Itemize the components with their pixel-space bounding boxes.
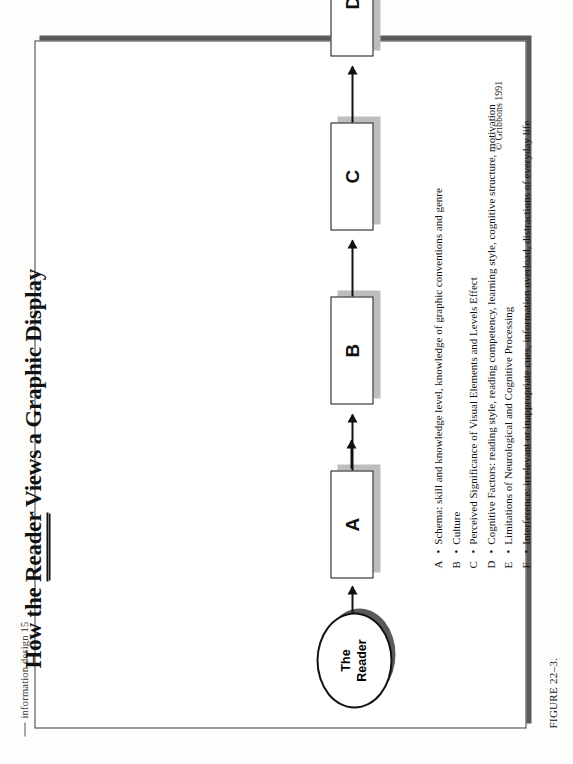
legend-item-b: B•Culture (449, 104, 461, 568)
running-head-rule (24, 722, 25, 736)
legend-key-f: F (519, 558, 531, 568)
legend-item-a: A•Schema: skill and knowledge level, kno… (431, 104, 443, 568)
reader-node-line2: Reader (354, 639, 370, 681)
legend-key-b: B (449, 558, 461, 568)
title-suffix: Views a Graphic Display (20, 268, 45, 511)
legend-text-b: Culture (449, 511, 461, 544)
legend-item-f: F•Interference: irrelevant or inappropri… (519, 104, 531, 568)
legend-sep-b: • (449, 549, 461, 553)
legend-sep-f: • (519, 549, 531, 553)
legend-key-a: A (431, 558, 443, 568)
legend-text-e: Limitations of Neurological and Cognitiv… (501, 306, 513, 544)
reader-node: The Reader (316, 612, 392, 708)
legend-key-c: C (466, 558, 478, 568)
legend-sep-d: • (484, 549, 496, 553)
process-box-b-label: B (341, 343, 363, 357)
legend-text-c: Perceived Significance of Visual Element… (466, 277, 478, 544)
figure-title: How the Reader Views a Graphic Display (20, 268, 46, 668)
legend-item-d: D•Cognitive Factors: reading style, read… (484, 104, 496, 568)
legend-sep-c: • (466, 549, 478, 553)
figure-caption: FIGURE 22–3. (546, 657, 558, 728)
process-box-b: B (330, 296, 373, 404)
legend-item-e: E•Limitations of Neurological and Cognit… (501, 104, 513, 568)
legend-item-c: C•Perceived Significance of Visual Eleme… (466, 104, 478, 568)
arrow-a-to-b (351, 414, 353, 470)
legend-key-e: E (501, 558, 513, 568)
reader-node-line1: The (338, 649, 354, 671)
scanned-page: information design 15 How the Reader Vie… (0, 0, 573, 764)
title-underlined-word: Reader (20, 512, 48, 582)
legend-text-f: Interference: irrelevant or inappropriat… (519, 120, 531, 544)
legend-key-d: D (484, 558, 496, 568)
arrow-reader-to-a (351, 586, 353, 612)
legend-text-a: Schema: skill and knowledge level, knowl… (431, 188, 443, 544)
copyright-notice: © Gribbons 1991 (492, 80, 503, 150)
process-box-d: D (330, 0, 373, 56)
legend-sep-a: • (431, 549, 443, 553)
legend-sep-e: • (501, 549, 513, 553)
arrow-c-to-d (351, 66, 353, 122)
process-box-a-label: A (341, 517, 363, 531)
title-prefix: How the (20, 581, 45, 668)
process-box-a: A (330, 470, 373, 578)
process-box-d-label: D (341, 0, 363, 9)
rotated-page-canvas: information design 15 How the Reader Vie… (0, 0, 573, 764)
process-box-c: C (330, 122, 373, 230)
process-box-c-label: C (341, 169, 363, 183)
figure-legend: A•Schema: skill and knowledge level, kno… (431, 104, 536, 568)
arrow-b-to-c (351, 240, 353, 296)
legend-text-d: Cognitive Factors: reading style, readin… (484, 104, 496, 544)
